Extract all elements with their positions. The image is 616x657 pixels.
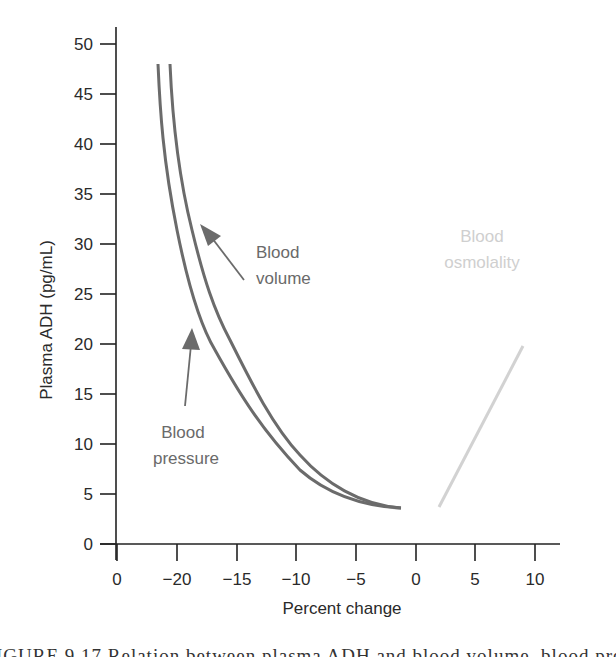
x-tick-label: 5 — [470, 570, 479, 589]
y-tick-label: 10 — [74, 435, 93, 454]
blood-pressure-label-line2: pressure — [153, 449, 219, 468]
x-tick-label: −10 — [282, 570, 311, 589]
y-ticks — [100, 44, 116, 544]
y-tick-label: 50 — [74, 35, 93, 54]
y-tick-label: 25 — [74, 285, 93, 304]
y-tick-label: 30 — [74, 235, 93, 254]
x-tick-label: 0 — [411, 570, 420, 589]
y-tick-label: 20 — [74, 335, 93, 354]
y-tick-label: 5 — [84, 485, 93, 504]
y-axis-title: Plasma ADH (pg/mL) — [37, 240, 56, 400]
y-tick-label: 35 — [74, 185, 93, 204]
blood-pressure-arrow — [182, 328, 200, 406]
blood-volume-label-line1: Blood — [256, 243, 299, 262]
x-tick-label: −15 — [223, 570, 252, 589]
blood-osmolality-label-line2: osmolality — [444, 253, 520, 272]
blood-pressure-label-line1: Blood — [161, 423, 204, 442]
y-tick-labels: 0 5 10 15 20 25 30 35 40 45 50 — [74, 35, 93, 554]
x-tick-label: 10 — [526, 570, 545, 589]
blood-volume-arrow — [200, 224, 244, 280]
x-axis-title: Percent change — [282, 599, 401, 618]
blood-osmolality-label-line1: Blood — [460, 227, 503, 246]
y-tick-label: 0 — [84, 535, 93, 554]
x-tick-label: −5 — [346, 570, 365, 589]
y-tick-label: 45 — [74, 85, 93, 104]
x-tick-label: −20 — [163, 570, 192, 589]
x-tick-labels: 0 −20 −15 −10 −5 0 5 10 — [112, 570, 544, 589]
blood-osmolality-line — [439, 346, 523, 507]
x-tick-label: 0 — [112, 570, 121, 589]
y-tick-label: 40 — [74, 135, 93, 154]
blood-volume-label-line2: volume — [256, 269, 311, 288]
x-ticks — [117, 544, 535, 561]
figure-caption: IGURE 9.17 Relation between plasma ADH a… — [0, 645, 616, 657]
y-tick-label: 15 — [74, 385, 93, 404]
